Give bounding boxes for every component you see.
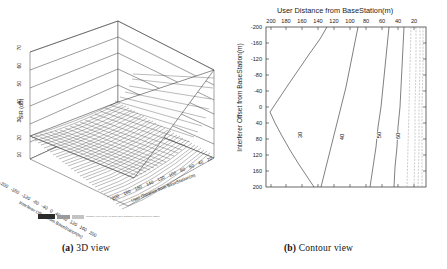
subfigure-3d-view: 70 60 50 40 30 20 10 SIR (dB) -200 -160 … [8, 6, 222, 234]
tick: 200 [88, 230, 97, 238]
caption-tag-b: (b) [284, 243, 296, 253]
contour-plot: User Distance from BaseStation(m) Interf… [226, 2, 444, 212]
subfigure-contour-view: User Distance from BaseStation(m) Interf… [226, 2, 444, 234]
surface-plot-3d [8, 6, 222, 216]
figure-page: 70 60 50 40 30 20 10 SIR (dB) -200 -160 … [0, 0, 447, 269]
footer-block2-icon [72, 215, 84, 219]
caption-text-a: 3D view [76, 243, 110, 253]
zaxis-label-3d: SIR (dB) [18, 79, 24, 139]
plot-footer-3d: surface plot of sir versus user distance… [38, 214, 160, 219]
tick: 160 [79, 225, 88, 233]
contour-axes [226, 2, 444, 212]
contour-label-50: 50 [376, 131, 382, 138]
caption-subfigure-b: (b) Contour view [284, 243, 353, 253]
footer-block-icon [57, 215, 70, 219]
contour-label-40: 40 [339, 133, 345, 140]
tick: 120 [69, 219, 78, 227]
footer-text: surface plot of sir versus user distance… [86, 215, 160, 218]
tick: 0 [49, 208, 54, 214]
caption-subfigure-a: (a) 3D view [62, 243, 110, 253]
footer-badge-icon [38, 214, 55, 219]
caption-text-b: Contour view [299, 243, 353, 253]
caption-tag-a: (a) [62, 243, 74, 253]
contour-label-30: 30 [297, 131, 303, 138]
contour-label-60: 60 [395, 132, 401, 139]
